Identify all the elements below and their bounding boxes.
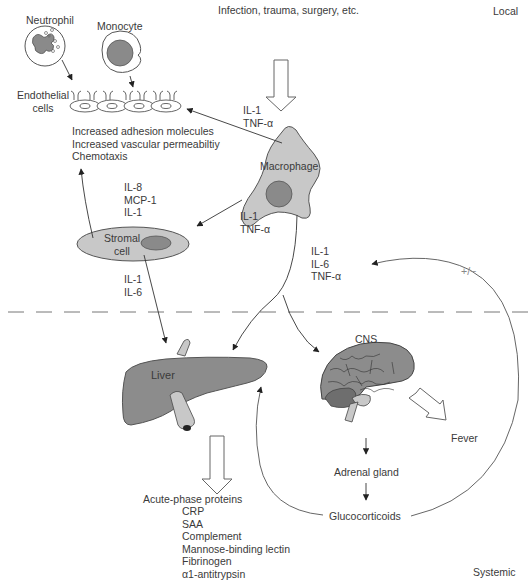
endothelial-cells [70,91,181,112]
macrophage-to-cns-arrow [283,295,319,352]
acute-phase-list: CRP SAA Complement Mannose-binding lecti… [182,505,290,580]
trigger-label: Infection, trauma, surgery, etc. [218,4,359,17]
systemic-label: Systemic [473,566,516,579]
feedback-label: +/− [461,265,476,278]
cytokines-macrophage-to-endothelium: IL-1 TNF-α [243,104,273,129]
macrophage-to-stromal-arrow [197,200,242,226]
glucocorticoids-label: Glucocorticoids [329,510,401,523]
macrophage-to-liver-arrow [233,215,297,350]
neutrophil-cell [25,26,65,66]
neutrophil-label: Neutrophil [26,14,74,27]
fever-hollow-arrow [409,388,446,420]
stromal-to-liver-arrow [144,255,166,343]
cytokines-stromal-to-liver: IL-1 IL-6 [124,273,142,298]
adrenal-gland-label: Adrenal gland [334,466,399,479]
cytokines-macrophage-to-stromal: IL-1 TNF-α [240,210,270,235]
acute-phase-item: α1-antitrypsin [182,568,290,581]
acute-phase-item: Fibrinogen [182,555,290,568]
brain-organ [321,342,415,422]
macrophage-label: Macrophage [260,160,318,173]
cytokines-stromal-to-endothelium: IL-8 MCP-1 IL-1 [124,181,157,219]
local-label: Local [493,5,518,18]
monocyte-cell [102,31,141,72]
monocyte-label: Monocyte [97,20,143,33]
cytokines-macrophage-systemic: IL-1 IL-6 TNF-α [311,245,341,283]
liver-label: Liver [151,369,175,382]
acute-phase-item: Complement [182,530,290,543]
acute-phase-item: Mannose-binding lectin [182,543,290,556]
acute-phase-item: CRP [182,505,290,518]
glucocorticoid-to-liver-arrow [256,387,323,515]
liver-organ [122,339,267,431]
acute-phase-hollow-arrow [202,436,232,494]
fever-label: Fever [451,432,478,445]
acute-phase-title: Acute-phase proteins [143,493,242,506]
diagram-canvas [0,0,532,586]
endothelial-effects-list: Increased adhesion molecules Increased v… [72,125,220,163]
stromal-label: Stromal cell [100,232,144,257]
endothelial-label: Endothelial cells [15,89,71,114]
neutrophil-arrow [62,60,72,80]
cns-label: CNS [355,333,377,346]
stromal-to-effects-arrow [81,169,93,238]
acute-phase-item: SAA [182,518,290,531]
monocyte-arrow [130,76,133,87]
